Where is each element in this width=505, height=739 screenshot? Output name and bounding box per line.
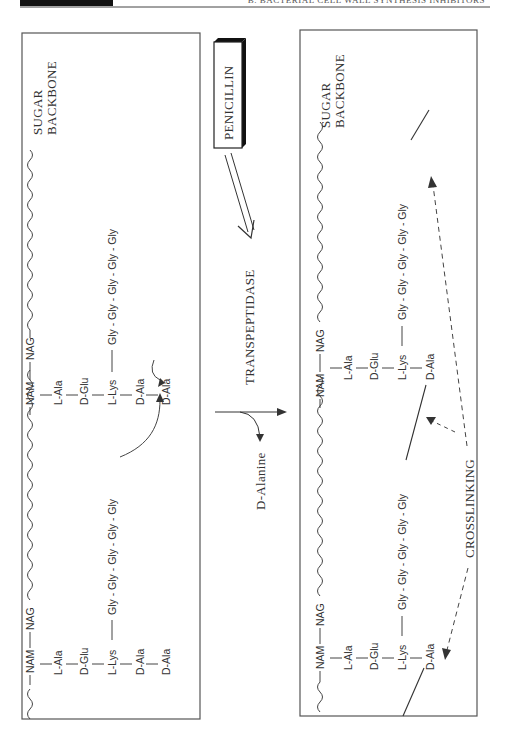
crosslink-dashed-arrow-mid <box>430 420 455 432</box>
nam-label: NAM <box>24 650 36 673</box>
sugar-backbone-label-line2: BACKBONE <box>332 54 347 128</box>
chain-d-ala: D-Ala <box>424 354 436 380</box>
left-unit-2: NAG NAM L-Ala D-Glu L-Lys D-Ala D-Ala Gl… <box>24 393 172 685</box>
pentaglycine-bridge: Gly - Gly - Gly - Gly - Gly <box>396 493 408 610</box>
left-panel: SUGAR BACKBONE NAG NAM L-Ala D-Glu L-Lys… <box>22 33 200 719</box>
sugar-backbone-top <box>318 122 323 322</box>
sugar-backbone-label-line1: SUGAR <box>318 82 333 128</box>
pentaglycine-bridge: Gly - Gly - Gly - Gly - Gly <box>106 498 118 615</box>
nam-label: NAM <box>24 382 36 405</box>
chain-d-glu: D-Glu <box>368 352 380 380</box>
sugar-backbone-label-line1: SUGAR <box>30 89 45 135</box>
nag-label: NAG <box>314 329 326 352</box>
sugar-backbone-bottom <box>318 682 323 712</box>
arrow-up-icon <box>426 417 436 425</box>
pentaglycine-bridge: Gly - Gly - Gly - Gly - Gly <box>396 203 408 320</box>
left-unit-1: NAG NAM L-Ala D-Glu L-Lys D-Ala D-Ala Gl… <box>24 228 172 415</box>
penicillin-label: PENICILLIN <box>221 65 236 140</box>
chain-l-lys: L-Lys <box>106 380 118 405</box>
d-alanine-label: D-Alanine <box>253 452 268 510</box>
sugar-backbone-middle <box>318 376 323 596</box>
pentaglycine-bridge: Gly - Gly - Gly - Gly - Gly <box>106 228 118 345</box>
chain-l-ala: L-Ala <box>342 645 354 670</box>
chain-d-glu: D-Glu <box>368 642 380 670</box>
right-unit-2: NAG NAM L-Ala D-Glu L-Lys D-Ala Gly - Gl… <box>314 493 436 716</box>
right-unit-1: NAG NAM L-Ala D-Glu L-Lys D-Ala Gly - Gl… <box>314 110 436 460</box>
chain-l-ala: L-Ala <box>342 355 354 380</box>
chain-l-ala: L-Ala <box>52 380 64 405</box>
sugar-backbone-label-line2: BACKBONE <box>44 61 59 135</box>
nag-label: NAG <box>24 607 36 630</box>
chain-l-ala: L-Ala <box>52 650 64 675</box>
crosslink-dashed-arrow-top <box>433 185 467 446</box>
reaction-arrow-icon <box>277 408 287 416</box>
nag-label: NAG <box>24 337 36 360</box>
chain-d-ala: D-Ala <box>424 644 436 670</box>
crosslink-bond <box>411 110 429 140</box>
chain-d-ala: D-Ala <box>134 379 146 405</box>
chain-d-glu: D-Glu <box>78 377 90 405</box>
middle-reaction: PENICILLIN TRANSPEPTIDASE D-Alanine <box>214 38 287 510</box>
crosslink-bond <box>403 668 424 716</box>
chain-d-ala: D-Ala <box>134 649 146 675</box>
nam-label: NAM <box>314 646 326 669</box>
header-tab <box>20 0 113 6</box>
chain-d-glu: D-Glu <box>78 647 90 675</box>
sugar-backbone-bottom <box>28 689 33 719</box>
byproduct-arrow-icon <box>256 434 264 442</box>
right-panel: SUGAR BACKBONE NAG NAM L-Ala D-Glu L-Lys… <box>300 30 477 716</box>
chain-l-lys: L-Lys <box>396 645 408 670</box>
chain-l-lys: L-Lys <box>106 650 118 675</box>
arrow-down-icon <box>442 648 451 660</box>
peptidoglycan-diagram: B. BACTERIAL CELL WALL SYNTHESIS INHIBIT… <box>0 0 505 739</box>
crosslink-bond <box>406 385 426 460</box>
right-panel-frame <box>300 30 477 716</box>
transpeptidase-label: TRANSPEPTIDASE <box>242 270 257 385</box>
chain-d-ala-terminal: D-Ala <box>160 649 172 675</box>
crosslinking-label: CROSSLINKING <box>462 459 477 558</box>
nam-label: NAM <box>314 374 326 397</box>
sugar-backbone-top <box>28 150 33 330</box>
nag-label: NAG <box>314 603 326 626</box>
running-title: B. BACTERIAL CELL WALL SYNTHESIS INHIBIT… <box>248 0 485 5</box>
chain-l-lys: L-Lys <box>396 355 408 380</box>
crosslink-dashed-arrow-bottom <box>447 568 468 650</box>
arrow-up-icon <box>428 176 437 188</box>
